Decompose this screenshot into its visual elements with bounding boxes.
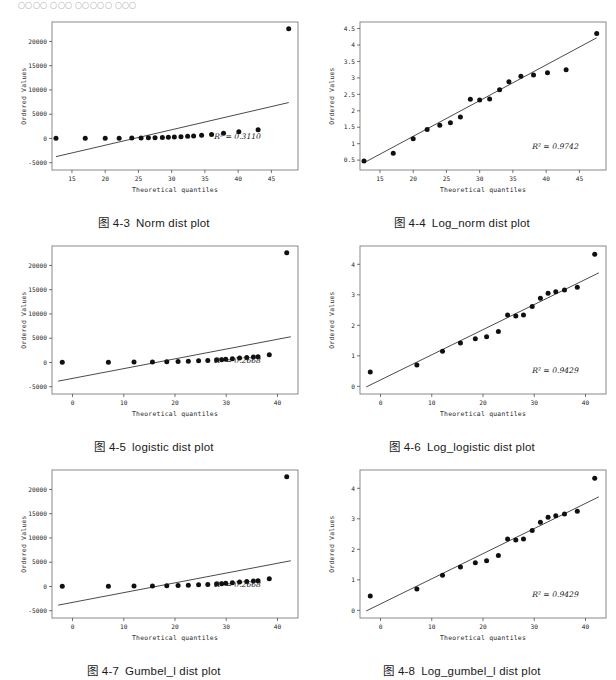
data-point — [545, 70, 550, 75]
data-point — [477, 97, 482, 102]
data-point — [205, 358, 210, 363]
data-point — [505, 312, 510, 317]
data-point — [209, 132, 214, 137]
y-tick-label: 20000 — [28, 38, 47, 45]
data-point — [484, 558, 489, 563]
caption-number: 图 4-6 — [389, 441, 421, 453]
data-point — [176, 359, 181, 364]
caption-title: Gumbel_l dist plot — [125, 665, 221, 677]
y-axis-title: Ordered Values — [20, 291, 28, 348]
plot-area-4-7: -500005000100001500020000010203040Theore… — [0, 456, 308, 648]
caption-number: 图 4-7 — [87, 665, 119, 677]
y-axis-title: Ordered Values — [328, 67, 336, 124]
data-point — [196, 358, 201, 363]
data-point — [473, 336, 478, 341]
data-point — [521, 536, 526, 541]
caption-title: logistic dist plot — [132, 441, 214, 453]
data-point — [414, 363, 419, 368]
data-point — [448, 120, 453, 125]
figure-caption-4-3: 图 4-3Norm dist plot — [0, 214, 308, 230]
scatter-plot-svg: -500005000100001500020000010203040Theore… — [0, 456, 308, 648]
x-tick-label: 15 — [68, 175, 76, 182]
y-tick-label: 0 — [43, 135, 47, 142]
data-point — [164, 583, 169, 588]
data-point — [139, 135, 144, 140]
r-squared-annotation: R² = 0.3110 — [213, 132, 261, 141]
y-tick-label: 15000 — [28, 286, 47, 293]
caption-number: 图 4-5 — [94, 441, 126, 453]
data-point — [440, 573, 445, 578]
x-tick-label: 20 — [409, 175, 417, 182]
y-axis-title: Ordered Values — [328, 515, 336, 572]
regression-fit-line — [56, 103, 289, 157]
y-tick-label: 3 — [351, 515, 355, 522]
y-tick-label: 10000 — [28, 534, 47, 541]
plot-frame — [52, 246, 298, 394]
data-point — [484, 334, 489, 339]
plot-area-4-5: -500005000100001500020000010203040Theore… — [0, 232, 308, 424]
y-tick-label: 4 — [351, 261, 355, 268]
figure-caption-4-4: 图 4-4Log_norm dist plot — [308, 214, 616, 230]
caption-number: 图 4-3 — [98, 217, 130, 229]
x-tick-label: 10 — [428, 623, 436, 630]
y-tick-label: 0 — [43, 583, 47, 590]
caption-title: Log_norm dist plot — [432, 217, 530, 229]
data-point — [103, 136, 108, 141]
y-tick-label: 20000 — [28, 486, 47, 493]
x-tick-label: 25 — [135, 175, 143, 182]
data-point — [592, 476, 597, 481]
data-point — [368, 594, 373, 599]
figure-block-4-8: 01234010203040Theoretical quantilesOrder… — [308, 456, 616, 680]
y-tick-label: 15000 — [28, 62, 47, 69]
scatter-plot-svg: -500005000100001500020000010203040Theore… — [0, 232, 308, 424]
data-point — [411, 136, 416, 141]
data-point — [185, 134, 190, 139]
data-point — [562, 287, 567, 292]
data-point — [553, 513, 558, 518]
y-tick-label: -5000 — [28, 159, 47, 166]
r-squared-annotation: R² = 0.9429 — [531, 366, 579, 375]
plot-area-4-8: 01234010203040Theoretical quantilesOrder… — [308, 456, 616, 648]
scatter-plot-svg: 0.511.522.533.544.515202530354045Theoret… — [308, 8, 616, 200]
figure-caption-4-5: 图 4-5logistic dist plot — [0, 438, 308, 454]
figure-caption-4-7: 图 4-7Gumbel_l dist plot — [0, 662, 308, 678]
caption-title: Log_gumbel_l dist plot — [421, 665, 540, 677]
r-squared-annotation: R² = 0.2668 — [213, 580, 261, 589]
y-tick-label: 5000 — [32, 110, 47, 117]
y-tick-label: 5000 — [32, 558, 47, 565]
y-tick-label: 2 — [351, 322, 355, 329]
data-point — [196, 582, 201, 587]
plot-frame — [52, 470, 298, 618]
data-point — [468, 97, 473, 102]
data-point — [166, 135, 171, 140]
x-axis-title: Theoretical quantiles — [440, 634, 526, 642]
data-point — [538, 296, 543, 301]
x-tick-label: 30 — [476, 175, 484, 182]
data-point — [83, 136, 88, 141]
y-tick-label: 0 — [43, 359, 47, 366]
x-tick-label: 30 — [531, 623, 539, 630]
x-tick-label: 40 — [542, 175, 550, 182]
data-point — [284, 250, 289, 255]
data-point — [267, 576, 272, 581]
x-tick-label: 20 — [101, 175, 109, 182]
y-tick-label: 2 — [351, 107, 355, 114]
data-point — [440, 349, 445, 354]
plot-area-4-3: -50000500010000150002000015202530354045T… — [0, 8, 308, 200]
data-point — [513, 313, 518, 318]
x-tick-label: 35 — [201, 175, 209, 182]
data-point — [414, 587, 419, 592]
x-tick-label: 30 — [168, 175, 176, 182]
data-point — [146, 135, 151, 140]
y-tick-label: 10000 — [28, 86, 47, 93]
data-point — [518, 74, 523, 79]
y-tick-label: 4.5 — [344, 25, 355, 32]
data-point — [53, 136, 58, 141]
y-tick-label: 10000 — [28, 310, 47, 317]
x-tick-label: 0 — [379, 399, 383, 406]
scatter-plot-svg: 01234010203040Theoretical quantilesOrder… — [308, 232, 616, 424]
x-tick-label: 20 — [171, 623, 179, 630]
data-point — [284, 474, 289, 479]
x-tick-label: 30 — [223, 623, 231, 630]
figure-caption-4-6: 图 4-6Log_logistic dist plot — [308, 438, 616, 454]
